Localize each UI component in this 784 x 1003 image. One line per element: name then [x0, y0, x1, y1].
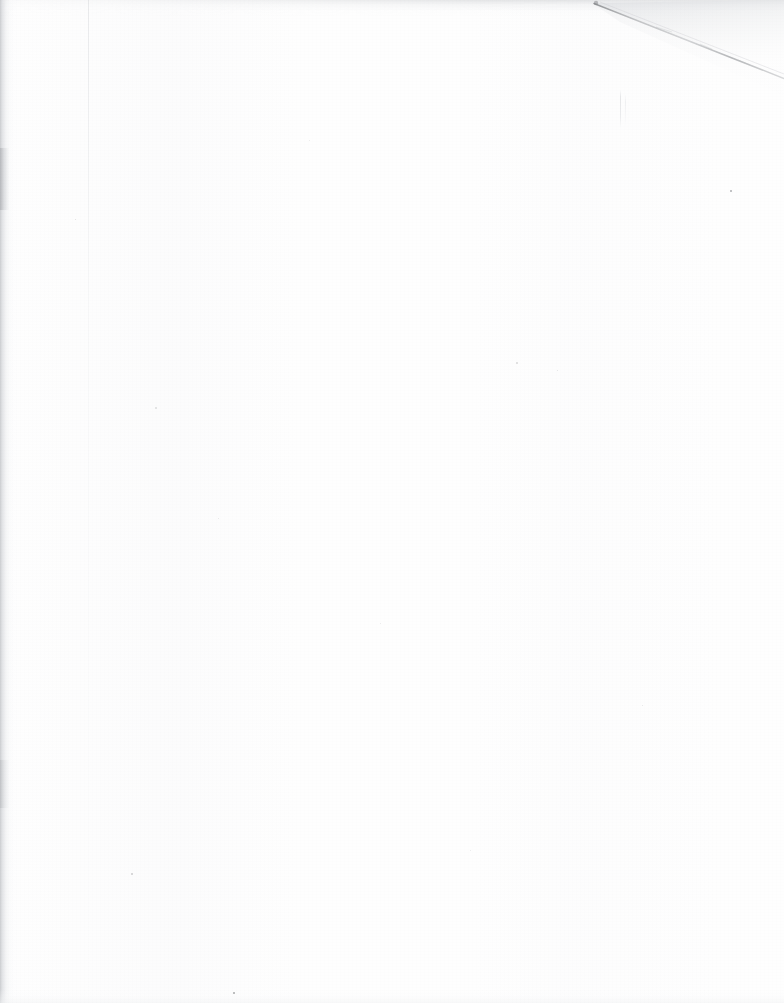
- faint-vertical-hairline: [620, 90, 621, 128]
- faint-vertical-hairline-secondary: [625, 94, 626, 126]
- paper-surface: [0, 0, 784, 1003]
- scanned-page: Blank scanned page: [0, 0, 784, 1003]
